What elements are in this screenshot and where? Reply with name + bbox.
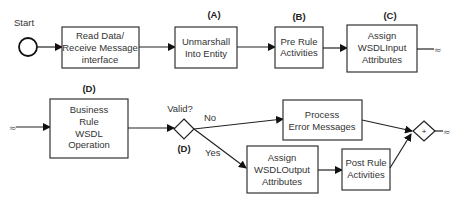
svg-text:Error Messages: Error Messages — [288, 121, 355, 132]
svg-text:WSDL: WSDL — [75, 128, 102, 139]
no-label: No — [204, 112, 216, 123]
svg-text:Process: Process — [305, 109, 340, 120]
decision-gateway-icon — [174, 119, 194, 139]
tag-a: (A) — [207, 9, 220, 20]
flow-diagram: Start Read Data/ Receive Message interfa… — [0, 0, 458, 204]
process-error-box: Process Error Messages — [283, 100, 362, 140]
svg-text:WSDLOutput: WSDLOutput — [254, 164, 310, 175]
start-event-icon — [19, 38, 37, 56]
decision-tag: (D) — [177, 143, 190, 154]
svg-text:Assign: Assign — [268, 152, 297, 163]
start-label: Start — [14, 17, 34, 28]
business-rule-box: Business Rule WSDL Operation — [50, 99, 128, 158]
connector — [390, 134, 411, 168]
assign-input-box: Assign WSDLInput Attributes — [347, 25, 417, 72]
svg-text:Attributes: Attributes — [262, 176, 302, 187]
svg-text:Operation: Operation — [68, 139, 110, 150]
svg-text:Activities: Activities — [347, 169, 385, 180]
svg-text:Read Data/: Read Data/ — [76, 30, 124, 41]
connector — [362, 120, 412, 131]
svg-text:Business: Business — [70, 104, 109, 115]
continuation-icon: ≈ — [434, 45, 442, 55]
yes-label: Yes — [205, 147, 221, 158]
svg-text:Receive Message: Receive Message — [62, 42, 138, 53]
svg-text:Unmarshall: Unmarshall — [182, 36, 230, 47]
unmarshall-box: Unmarshall Into Entity — [175, 27, 237, 68]
svg-text:Attributes: Attributes — [362, 54, 402, 65]
svg-text:Post Rule: Post Rule — [345, 157, 386, 168]
tag-d: (D) — [82, 83, 95, 94]
svg-text:Activities: Activities — [280, 47, 318, 58]
continuation-icon: ≈ — [443, 127, 451, 137]
assign-output-box: Assign WSDLOutput Attributes — [247, 146, 318, 193]
decision-question: Valid? — [167, 103, 193, 114]
svg-text:WSDLInput: WSDLInput — [358, 42, 407, 53]
svg-text:Pre Rule: Pre Rule — [281, 36, 318, 47]
tag-b: (B) — [292, 11, 305, 22]
svg-text:Assign: Assign — [368, 30, 397, 41]
post-rule-box: Post Rule Activities — [342, 149, 390, 190]
read-data-box: Read Data/ Receive Message interface — [62, 27, 139, 68]
svg-text:interface: interface — [82, 54, 118, 65]
svg-text:Into Entity: Into Entity — [185, 48, 227, 59]
pre-rule-box: Pre Rule Activities — [275, 27, 323, 68]
plus-icon: + — [422, 127, 427, 136]
tag-c: (C) — [383, 10, 396, 21]
continuation-icon: ≈ — [9, 123, 17, 133]
svg-text:Rule: Rule — [79, 116, 99, 127]
